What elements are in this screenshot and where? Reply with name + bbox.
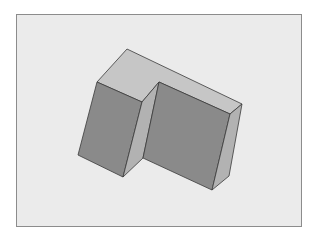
l-block-diagram (0, 0, 317, 241)
